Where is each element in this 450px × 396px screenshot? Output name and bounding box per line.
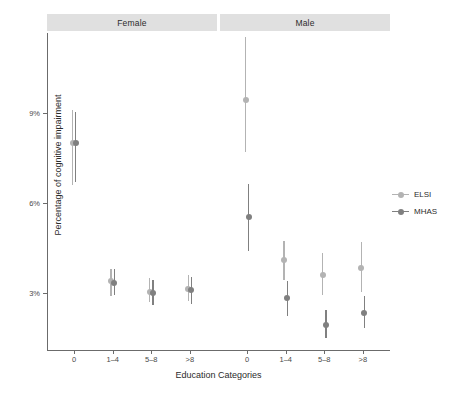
x-axis-title: Education Categories (47, 370, 390, 380)
data-point[interactable] (320, 272, 326, 278)
chart-legend: ELSI MHAS (392, 186, 450, 220)
x-tick-mark (190, 350, 191, 354)
legend-label-elsi: ELSI (414, 190, 431, 199)
x-tick-label: >8 (359, 355, 368, 364)
x-tick-label: 1–4 (106, 355, 119, 364)
x-tick-label: 5–8 (318, 355, 331, 364)
data-point[interactable] (73, 140, 79, 146)
x-tick-mark (74, 350, 75, 354)
error-bar (72, 110, 73, 185)
facet-strip-male: Male (220, 14, 390, 31)
x-tick-mark (113, 350, 114, 354)
legend-key-mhas-icon (392, 205, 409, 218)
x-tick-label: 0 (245, 355, 249, 364)
facet-strip-female: Female (47, 14, 217, 31)
legend-key-elsi-icon (392, 188, 409, 201)
x-tick-mark (324, 350, 325, 354)
x-axis-line (47, 350, 390, 351)
data-point[interactable] (361, 310, 367, 316)
chart-canvas: Female Male 3%6%9% 01–45–8>801–45–8>8 Ed… (0, 0, 450, 396)
legend-item-mhas[interactable]: MHAS (392, 203, 450, 220)
data-point[interactable] (243, 97, 249, 103)
error-bar (75, 112, 76, 183)
legend-item-elsi[interactable]: ELSI (392, 186, 450, 203)
x-tick-mark (151, 350, 152, 354)
data-point[interactable] (281, 257, 287, 263)
facet-strip-female-label: Female (117, 18, 147, 28)
legend-label-mhas: MHAS (414, 207, 437, 216)
x-tick-label: 1–4 (279, 355, 292, 364)
data-point[interactable] (284, 295, 290, 301)
x-tick-label: 5–8 (145, 355, 158, 364)
error-bar (245, 37, 246, 153)
y-axis-title: Percentage of cognitive impairment (53, 35, 63, 295)
data-point[interactable] (323, 322, 329, 328)
y-axis-title-wrap: Percentage of cognitive impairment (24, 0, 46, 396)
data-point[interactable] (246, 214, 252, 220)
data-point[interactable] (188, 287, 194, 293)
x-tick-label: >8 (186, 355, 195, 364)
data-point[interactable] (150, 290, 156, 296)
y-axis-line (47, 33, 48, 350)
data-point[interactable] (111, 280, 117, 286)
data-point[interactable] (358, 265, 364, 271)
x-tick-label: 0 (72, 355, 76, 364)
x-tick-mark (286, 350, 287, 354)
x-tick-mark (247, 350, 248, 354)
x-tick-mark (363, 350, 364, 354)
facet-strip-male-label: Male (295, 18, 314, 28)
